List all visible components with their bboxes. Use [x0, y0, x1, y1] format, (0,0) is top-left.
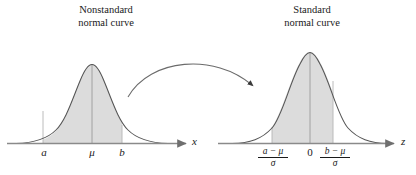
normal-curve-transformation-figure: Nonstandard normal curve Standard normal…: [0, 0, 416, 175]
right-axis-label-z: z: [401, 135, 405, 147]
right-plot-title: Standard normal curve: [262, 4, 362, 29]
right-tick-lower-denominator: σ: [258, 158, 288, 168]
right-tick-upper-denominator: σ: [320, 158, 350, 168]
right-tick-lower-numerator: a − μ: [258, 146, 288, 156]
left-tick-a: a: [38, 146, 50, 158]
left-axis-label-x: x: [192, 135, 197, 147]
left-plot-title-line2: normal curve: [78, 17, 134, 28]
left-plot-title-line1: Nonstandard: [79, 4, 133, 15]
right-plot-title-line2: normal curve: [284, 17, 340, 28]
left-tick-b: b: [116, 146, 128, 158]
left-tick-mu: μ: [86, 146, 98, 158]
left-normal-curve-plot: [7, 64, 186, 144]
right-tick-upper-bound: b − μ σ: [320, 146, 350, 168]
right-normal-curve-plot: [218, 52, 394, 144]
transformation-arrow: [128, 64, 252, 97]
right-plot-title-line1: Standard: [293, 4, 330, 15]
right-tick-upper-numerator: b − μ: [320, 146, 350, 156]
right-tick-lower-bound: a − μ σ: [258, 146, 288, 168]
right-tick-zero: 0: [304, 146, 316, 158]
left-plot-title: Nonstandard normal curve: [56, 4, 156, 29]
